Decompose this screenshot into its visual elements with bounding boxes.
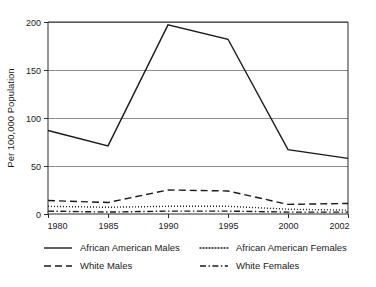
series-line-white-males (48, 190, 348, 204)
grid-lines (48, 23, 348, 167)
legend-label-white-males: White Males (80, 260, 133, 271)
x-tick-label: 1985 (98, 221, 118, 231)
x-tick-label: 2002 (329, 221, 349, 231)
x-tick-label: 1990 (158, 221, 178, 231)
y-tick-label: 0 (36, 210, 41, 220)
legend-label-african-american-females: African American Females (236, 242, 347, 253)
x-tick-label: 2000 (278, 221, 298, 231)
series-line-african-american-males (48, 25, 348, 158)
y-tick-label: 50 (31, 162, 41, 172)
legend-label-white-females: White Females (236, 260, 300, 271)
chart-svg: 050100150200 198019851990199520002002 Pe… (0, 0, 376, 287)
y-axis-ticks: 050100150200 (26, 18, 48, 220)
x-tick-label: 1995 (218, 221, 238, 231)
y-tick-label: 200 (26, 18, 41, 28)
x-tick-label: 1980 (47, 221, 67, 231)
legend-label-african-american-males: African American Males (80, 242, 180, 253)
series-line-white-females (48, 211, 348, 212)
x-axis-ticks: 198019851990199520002002 (47, 214, 349, 231)
series-line-african-american-females (48, 206, 348, 210)
y-axis-title: Per 100,000 Population (5, 68, 16, 167)
y-tick-label: 150 (26, 66, 41, 76)
chart-legend: African American MalesAfrican American F… (44, 242, 347, 271)
line-chart-figure: 050100150200 198019851990199520002002 Pe… (0, 0, 376, 287)
y-tick-label: 100 (26, 114, 41, 124)
